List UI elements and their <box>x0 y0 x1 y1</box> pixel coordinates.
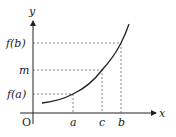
function-curve <box>42 24 129 103</box>
y-axis-label: y <box>28 5 36 18</box>
x-axis-label: x <box>159 107 166 120</box>
y-tick-fa: f(a) <box>6 88 26 101</box>
y-tick-m: m <box>19 64 29 77</box>
guide-m <box>33 70 102 113</box>
y-tick-fb: f(b) <box>5 37 26 50</box>
x-tick-b: b <box>118 116 125 129</box>
x-tick-a: a <box>70 116 77 129</box>
origin-label: O <box>22 116 31 129</box>
function-diagram: y x O f(b) m f(a) a c b <box>0 0 176 137</box>
x-tick-c: c <box>99 116 105 129</box>
